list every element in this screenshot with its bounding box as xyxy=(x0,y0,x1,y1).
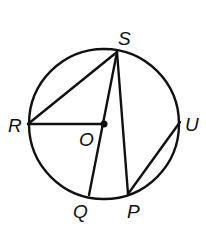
chord-SP xyxy=(117,52,128,194)
label-S: S xyxy=(118,28,131,49)
chord-RS xyxy=(28,52,117,124)
label-O: O xyxy=(79,129,94,150)
label-R: R xyxy=(8,115,22,136)
label-Q: Q xyxy=(73,201,88,222)
label-P: P xyxy=(127,201,140,222)
label-U: U xyxy=(185,114,199,135)
center-point-O xyxy=(101,121,108,128)
chord-PU xyxy=(128,122,180,194)
circle-diagram: S R O U Q P xyxy=(0,0,206,237)
